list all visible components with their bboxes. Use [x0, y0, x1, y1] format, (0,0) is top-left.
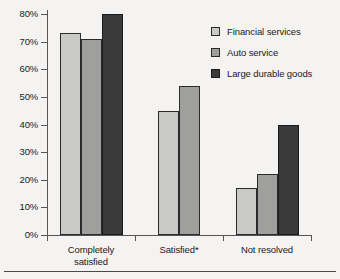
bar: [102, 14, 123, 235]
legend-item[interactable]: Financial services: [211, 21, 312, 42]
legend-label: Large durable goods: [227, 69, 312, 79]
y-axis-tick-label: 40%: [4, 120, 38, 130]
y-axis-tick-label: 10%: [4, 202, 38, 212]
x-axis-tick: [223, 235, 224, 241]
y-axis-tick-label: 50%: [4, 92, 38, 102]
footer-divider: [4, 271, 336, 272]
legend-swatch-icon: [211, 69, 220, 78]
bar: [257, 174, 278, 235]
bar: [60, 33, 81, 235]
y-axis-tick-label: 0%: [4, 230, 38, 240]
y-axis-tick-label: 60%: [4, 64, 38, 74]
bar: [236, 188, 257, 235]
y-axis-tick-label: 70%: [4, 37, 38, 47]
x-axis-tick: [135, 235, 136, 241]
chart-legend: Financial servicesAuto serviceLarge dura…: [211, 21, 312, 84]
bar-chart: 0%10%20%30%40%50%60%70%80% Completely sa…: [0, 0, 340, 279]
legend-swatch-icon: [211, 27, 220, 36]
bar: [81, 39, 102, 235]
x-axis-category-label: Not resolved: [212, 244, 322, 256]
x-axis-line: [47, 235, 312, 236]
x-axis-tick: [47, 235, 48, 241]
y-axis-tick-label: 30%: [4, 147, 38, 157]
legend-item[interactable]: Large durable goods: [211, 63, 312, 84]
y-axis-tick-label: 20%: [4, 175, 38, 185]
bar: [278, 125, 299, 236]
bar: [179, 86, 200, 235]
legend-swatch-icon: [211, 48, 220, 57]
x-axis-end-tick: [311, 235, 312, 241]
bar: [158, 111, 179, 235]
bar-group: [158, 14, 200, 235]
legend-label: Financial services: [227, 27, 301, 37]
y-axis-tick-label: 80%: [4, 9, 38, 19]
legend-label: Auto service: [227, 48, 278, 58]
legend-item[interactable]: Auto service: [211, 42, 312, 63]
bar-group: [60, 14, 123, 235]
